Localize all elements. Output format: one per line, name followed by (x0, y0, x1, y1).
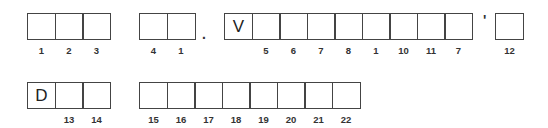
letter-box[interactable]: 7 (307, 13, 336, 40)
box-number: 16 (168, 114, 195, 125)
letter-box[interactable]: 2 (55, 13, 84, 40)
letter-box[interactable]: 8 (334, 13, 363, 40)
box-number: 5 (253, 45, 280, 56)
letter-box[interactable]: 18 (222, 82, 251, 109)
box-number: 3 (83, 45, 110, 56)
box-number: 14 (83, 114, 110, 125)
period-separator: . (202, 26, 206, 42)
letter-box[interactable]: 3 (82, 13, 111, 40)
box-number: 1 (168, 45, 195, 56)
box-number: 6 (280, 45, 307, 56)
letter-box[interactable]: 12 (495, 13, 524, 40)
box-number: 20 (278, 114, 305, 125)
apostrophe-separator: ' (483, 12, 486, 28)
box-number: 7 (308, 45, 335, 56)
word-group-2: 4 1 (139, 13, 196, 40)
letter-box[interactable]: 6 (279, 13, 308, 40)
box-number: 19 (250, 114, 277, 125)
word-group-3: V 5 6 7 8 1 10 11 7 (224, 13, 473, 40)
letter-box[interactable]: D (27, 82, 56, 109)
box-number: 18 (223, 114, 250, 125)
letter-box[interactable]: 14 (82, 82, 111, 109)
box-number: 15 (140, 114, 167, 125)
box-letter: V (233, 18, 244, 35)
box-number: 4 (140, 45, 167, 56)
letter-box[interactable]: 21 (304, 82, 333, 109)
box-number: 1 (28, 45, 55, 56)
box-number: 12 (496, 45, 523, 56)
box-number: 21 (305, 114, 332, 125)
letter-box[interactable]: 10 (389, 13, 418, 40)
box-number: 13 (56, 114, 83, 125)
letter-box[interactable]: 20 (277, 82, 306, 109)
word-group-6: 15 16 17 18 19 20 21 22 (139, 82, 361, 109)
box-number: 8 (335, 45, 362, 56)
letter-box[interactable]: V (224, 13, 253, 40)
box-number: 7 (445, 45, 472, 56)
box-number: 2 (56, 45, 83, 56)
box-number: 22 (333, 114, 360, 125)
letter-box[interactable]: 7 (444, 13, 473, 40)
box-number: 1 (363, 45, 390, 56)
letter-box[interactable]: 1 (27, 13, 56, 40)
letter-box[interactable]: 19 (249, 82, 278, 109)
box-number: 17 (195, 114, 222, 125)
word-group-5: D 13 14 (27, 82, 111, 109)
letter-box[interactable]: 1 (167, 13, 196, 40)
letter-box[interactable]: 4 (139, 13, 168, 40)
letter-box[interactable]: 11 (417, 13, 446, 40)
letter-box[interactable]: 5 (252, 13, 281, 40)
letter-box[interactable]: 17 (194, 82, 223, 109)
box-number: 10 (390, 45, 417, 56)
letter-box[interactable]: 13 (55, 82, 84, 109)
word-group-1: 1 2 3 (27, 13, 111, 40)
letter-box[interactable]: 1 (362, 13, 391, 40)
letter-box[interactable]: 16 (167, 82, 196, 109)
word-group-4: 12 (495, 13, 524, 40)
letter-box[interactable]: 22 (332, 82, 361, 109)
box-letter: D (35, 87, 47, 104)
letter-box[interactable]: 15 (139, 82, 168, 109)
box-number: 11 (418, 45, 445, 56)
